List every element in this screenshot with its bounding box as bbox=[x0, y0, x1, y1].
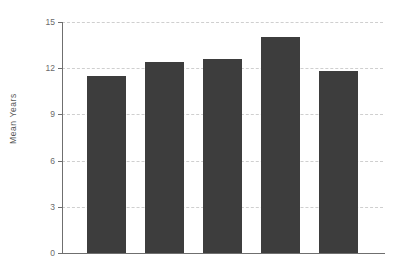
plot-area: 03691215 20002001200220032004 bbox=[62, 22, 383, 253]
chart-title-cropped bbox=[55, 0, 355, 3]
bar bbox=[319, 71, 358, 253]
gridline bbox=[62, 22, 383, 23]
bar bbox=[145, 62, 184, 253]
y-axis-tick-label: 12 bbox=[46, 63, 55, 73]
bar bbox=[261, 37, 300, 253]
bar bbox=[87, 76, 126, 253]
y-axis-tick-label: 15 bbox=[46, 17, 55, 27]
bar bbox=[203, 59, 242, 253]
y-axis-tick-label: 0 bbox=[50, 248, 55, 258]
x-axis-line bbox=[62, 253, 385, 254]
y-tick-mark bbox=[58, 22, 63, 23]
y-tick-mark bbox=[58, 68, 63, 69]
y-axis-tick-label: 3 bbox=[50, 202, 55, 212]
y-axis-title: Mean Years bbox=[8, 64, 18, 144]
bar-chart: Mean Years 03691215 20002001200220032004 bbox=[0, 0, 395, 279]
y-axis-tick-label: 9 bbox=[50, 109, 55, 119]
y-tick-mark bbox=[58, 253, 63, 254]
y-tick-mark bbox=[58, 161, 63, 162]
y-axis-tick-label: 6 bbox=[50, 156, 55, 166]
y-tick-mark bbox=[58, 114, 63, 115]
y-tick-mark bbox=[58, 207, 63, 208]
